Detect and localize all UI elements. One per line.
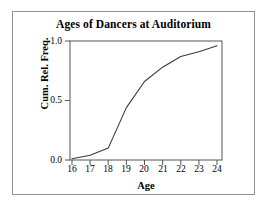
data-series-line xyxy=(72,46,217,159)
x-tick-label-16: 16 xyxy=(64,164,80,174)
x-tick-label-21: 21 xyxy=(155,164,171,174)
x-tick-label-22: 22 xyxy=(173,164,189,174)
y-tick-label-0: 0.0 xyxy=(38,155,62,165)
x-tick-label-20: 20 xyxy=(136,164,152,174)
x-tick-label-24: 24 xyxy=(209,164,225,174)
x-tick-label-18: 18 xyxy=(100,164,116,174)
x-tick-label-23: 23 xyxy=(191,164,207,174)
plot-frame xyxy=(70,41,222,160)
x-tick-label-19: 19 xyxy=(118,164,134,174)
y-tick-label-0.5: 0.5 xyxy=(38,95,62,105)
y-tick-marks xyxy=(65,41,70,160)
x-tick-label-17: 17 xyxy=(82,164,98,174)
y-tick-label-1: 1.0 xyxy=(38,36,62,46)
chart-figure: Ages of Dancers at Auditorium Cum. Rel. … xyxy=(0,0,268,206)
